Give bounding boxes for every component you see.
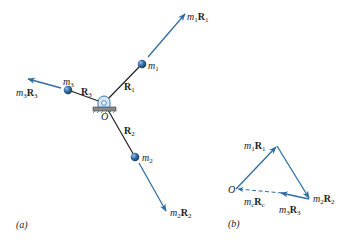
label-b-m2r2: m2R2	[313, 194, 334, 204]
rod-r1	[104, 64, 142, 103]
panel-b	[236, 146, 309, 199]
vector-m3r3	[281, 193, 309, 199]
label-r3: R3	[81, 87, 92, 97]
vector-m2r2	[277, 146, 309, 198]
label-b-origin: O	[228, 185, 235, 195]
caption-a: (a)	[16, 220, 28, 230]
label-b-m1r1: m1R1	[244, 141, 265, 151]
arrow-m2r2	[139, 163, 166, 211]
label-m1r1: m1R1	[187, 12, 208, 22]
label-m3: m3	[63, 77, 74, 87]
ball-m2	[131, 153, 140, 162]
label-m2: m2	[142, 153, 153, 163]
label-b-mcrc: mcRc	[244, 197, 265, 207]
caption-b: (b)	[228, 219, 240, 229]
label-m2r2: m2R2	[170, 208, 191, 218]
label-b-m3r3: m3R3	[279, 205, 300, 215]
label-pivot-o: O	[101, 112, 108, 122]
label-r2: R2	[124, 126, 135, 136]
label-m3r3: m3R3	[16, 88, 37, 98]
label-m1: m1	[148, 61, 159, 71]
label-r1: R1	[124, 82, 135, 92]
vector-mcrc	[238, 189, 282, 193]
ball-m1	[138, 60, 147, 69]
vector-m1r1	[236, 147, 276, 189]
arrow-m1r1	[148, 14, 185, 57]
